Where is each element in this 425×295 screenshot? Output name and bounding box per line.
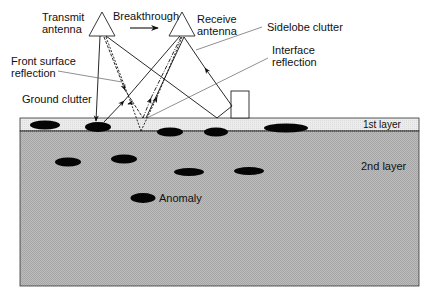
- sidelobe-clutter-label: Sidelobe clutter: [267, 21, 343, 33]
- breakthrough-label: Breakthrough: [113, 10, 179, 22]
- anomaly-label: Anomaly: [159, 192, 202, 204]
- layer-2: [20, 131, 419, 286]
- surface-obstacle: [231, 91, 249, 118]
- interface-reflection-label: Interface reflection: [272, 44, 317, 68]
- front-surface-reflection-label: Front surface reflection: [11, 55, 76, 79]
- gpr-diagram: [0, 0, 425, 295]
- layer-1-label: 1st layer: [363, 119, 401, 131]
- ray-paths: [96, 36, 232, 131]
- transmit-antenna-label: Transmit antenna: [42, 11, 84, 35]
- transmit-antenna-icon: [89, 12, 115, 36]
- layer-2-label: 2nd layer: [361, 160, 406, 172]
- ground: [20, 118, 419, 286]
- receive-antenna-label: Receive antenna: [197, 13, 237, 37]
- anomaly-object: [131, 193, 156, 203]
- ground-clutter-label: Ground clutter: [22, 93, 92, 105]
